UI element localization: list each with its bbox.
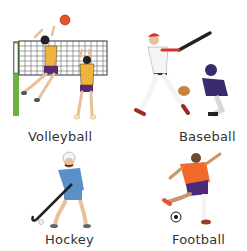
sport-card-volleyball: Volleyball	[0, 0, 124, 150]
sport-label-baseball: Baseball	[179, 129, 236, 144]
hockey-player-icon	[0, 150, 124, 230]
football-player-icon	[124, 150, 247, 230]
baseball-batter-catcher-icon	[124, 0, 247, 125]
volleyball-players-icon	[0, 0, 124, 125]
sport-label-volleyball: Volleyball	[28, 129, 92, 144]
sport-card-baseball: Baseball	[124, 0, 247, 150]
sport-card-hockey: Hockey	[0, 150, 124, 251]
sport-card-football: Football	[124, 150, 247, 251]
sport-label-football: Football	[172, 232, 225, 247]
sport-label-hockey: Hockey	[45, 232, 94, 247]
